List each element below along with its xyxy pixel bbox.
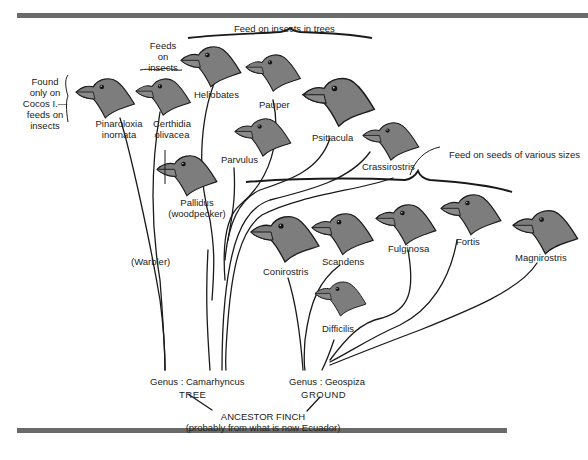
label-line: Pallidus — [163, 197, 231, 208]
label-heliobates: Heliobates — [194, 89, 239, 100]
label-pinaroloxia: Pinaroloxia inornata — [88, 118, 150, 140]
cocos-annotation: Found only on Cocos I.— feeds on insects — [20, 76, 70, 131]
fulginosa-head — [376, 205, 436, 245]
fortis-head — [441, 195, 501, 235]
pauper-head — [246, 55, 300, 91]
feeds-line-1: Feeds — [146, 40, 180, 51]
scandens-head — [312, 214, 373, 255]
label-magnirostris: Magnirostris — [515, 252, 567, 263]
feeds-on-insects-annotation: Feeds on insects — [146, 40, 180, 73]
heliobates-head — [181, 47, 241, 87]
cocos-line-5: insects — [20, 120, 70, 131]
root-sublabel: (probably from what is now Ecuador) — [172, 422, 354, 433]
label-tree: TREE — [179, 389, 206, 400]
root-label: ANCESTOR FINCH — [172, 411, 354, 422]
label-genus-camarhyncus: Genus : Camarhyncus — [150, 376, 245, 387]
label-pauper: Pauper — [259, 99, 290, 110]
label-warbler: (Warbler) — [131, 256, 170, 267]
certhidia-head — [136, 79, 190, 115]
pinaroloxia-head — [76, 79, 134, 118]
psittacula-head — [303, 79, 374, 127]
parvulus-head — [235, 119, 291, 156]
label-ground: GROUND — [301, 389, 346, 400]
cocos-line-1: Found — [20, 76, 70, 87]
feeds-line-2: on — [146, 51, 180, 62]
pallidus-head — [157, 156, 217, 196]
seeds-annotation: Feed on seeds of various sizes — [449, 149, 580, 160]
label-genus-geospiza: Genus : Geospiza — [289, 376, 365, 387]
label-line: inornata — [88, 129, 150, 140]
label-psittacula: Psittacula — [312, 132, 353, 143]
magnirostris-head — [513, 211, 578, 254]
label-line: (woodpecker) — [163, 208, 231, 219]
difficilis-head — [315, 282, 366, 316]
label-fulginosa: Fulginosa — [388, 243, 429, 254]
root-node: ANCESTOR FINCH (probably from what is no… — [172, 411, 354, 433]
label-scandens: Scandens — [322, 256, 364, 267]
cocos-line-2: only on — [20, 87, 70, 98]
label-crassirostris: Crassirostris — [362, 161, 415, 172]
conirostris-head — [251, 217, 319, 262]
label-line: olivacea — [146, 129, 198, 140]
label-difficilis: Difficilis — [322, 323, 354, 334]
label-line: Certhidia — [146, 118, 198, 129]
label-certhidia: Certhidia olivacea — [146, 118, 198, 140]
label-pallidus: Pallidus (woodpecker) — [163, 197, 231, 219]
label-parvulus: Parvulus — [221, 154, 258, 165]
phylogeny-lines — [0, 0, 588, 460]
cocos-line-4: feeds on — [20, 109, 70, 120]
label-fortis: Fortis — [456, 236, 480, 247]
label-conirostris: Conirostris — [263, 266, 308, 277]
insects-in-trees-annotation: Feed on insects in trees — [234, 23, 335, 34]
cocos-line-3: Cocos I.— — [20, 98, 70, 109]
label-line: Pinaroloxia — [88, 118, 150, 129]
feeds-line-3: insects — [146, 62, 180, 73]
crassirostris-head — [363, 123, 419, 160]
